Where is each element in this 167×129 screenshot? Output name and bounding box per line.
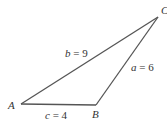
side-value-c: 4: [62, 109, 68, 121]
vertex-label-b: B: [92, 108, 99, 120]
equals-b: =: [71, 47, 83, 59]
side-c-AB: [21, 104, 96, 105]
side-label-b: b = 9: [65, 47, 88, 59]
equals-c: =: [50, 109, 62, 121]
vertex-label-a: A: [7, 99, 15, 111]
triangle-diagram: A B C b = 9 a = 6 c = 4: [0, 0, 167, 129]
equals-a: =: [137, 61, 149, 73]
side-label-a: a = 6: [131, 61, 154, 73]
vertex-label-c: C: [161, 4, 167, 16]
side-value-b: 9: [82, 47, 88, 59]
side-label-c: c = 4: [45, 109, 68, 121]
side-value-a: 6: [148, 61, 154, 73]
